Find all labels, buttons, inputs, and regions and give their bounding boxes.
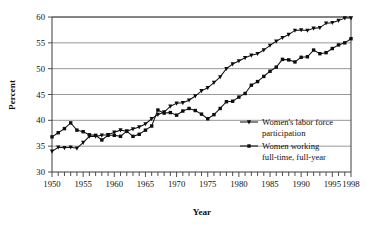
- data-point: [138, 133, 141, 136]
- chart-background: [0, 0, 372, 229]
- data-point: [81, 130, 84, 133]
- data-point: [331, 47, 334, 50]
- data-point: [75, 128, 78, 131]
- data-point: [125, 129, 128, 132]
- x-tick-label-1990: 1990: [292, 179, 310, 189]
- y-tick-label-50: 50: [36, 64, 45, 74]
- x-tick-label-1995: 1995: [324, 179, 341, 189]
- data-point: [275, 65, 278, 68]
- data-point: [225, 100, 228, 103]
- data-point: [131, 135, 134, 138]
- data-point: [206, 117, 209, 120]
- data-point: [262, 75, 265, 78]
- data-point: [50, 135, 53, 138]
- data-point: [312, 48, 315, 51]
- data-point: [162, 111, 165, 114]
- data-point: [100, 138, 103, 141]
- data-point: [57, 131, 60, 134]
- data-point: [106, 134, 109, 137]
- data-point: [150, 124, 153, 127]
- data-point: [69, 121, 72, 124]
- data-point: [200, 112, 203, 115]
- data-point: [187, 107, 190, 110]
- x-tick-label-1970: 1970: [168, 179, 186, 189]
- data-point: [293, 60, 296, 63]
- data-point: [94, 134, 97, 137]
- data-point: [324, 51, 327, 54]
- data-point: [268, 70, 271, 73]
- x-tick-label-1980: 1980: [230, 179, 248, 189]
- data-point: [144, 128, 147, 131]
- data-point: [243, 92, 246, 95]
- data-point: [281, 58, 284, 61]
- x-tick-label-1960: 1960: [106, 179, 124, 189]
- y-tick-label-60: 60: [36, 12, 45, 22]
- x-axis-title: Year: [193, 207, 211, 217]
- data-point: [113, 134, 116, 137]
- data-point: [175, 113, 178, 116]
- data-point: [306, 55, 309, 58]
- data-point: [194, 109, 197, 112]
- y-tick-label-45: 45: [36, 90, 45, 100]
- legend-label-line1-2: Women working: [262, 141, 320, 151]
- data-point: [63, 127, 66, 130]
- y-tick-label-35: 35: [36, 141, 45, 151]
- data-point: [119, 135, 122, 138]
- x-tick-label-1985: 1985: [261, 179, 278, 189]
- x-tick-label-1965: 1965: [137, 179, 154, 189]
- data-point: [212, 113, 215, 116]
- legend-label-line2-2: full-time, full-year: [262, 152, 326, 162]
- data-point: [349, 37, 352, 40]
- data-point: [250, 84, 253, 87]
- x-tick-label-1950: 1950: [43, 179, 61, 189]
- data-point: [218, 107, 221, 110]
- data-point: [88, 133, 91, 136]
- y-tick-label-55: 55: [36, 38, 45, 48]
- y-tick-label-30: 30: [36, 167, 45, 177]
- data-point: [318, 52, 321, 55]
- y-tick-label-40: 40: [36, 115, 45, 125]
- data-point: [181, 109, 184, 112]
- data-point: [237, 95, 240, 98]
- data-point: [156, 108, 159, 111]
- y-axis-title: Percent: [7, 79, 17, 110]
- data-point: [343, 41, 346, 44]
- legend-label-line2-1: participation: [262, 128, 306, 138]
- chart-figure: 1950195519601965197019751980198519901995…: [0, 0, 372, 229]
- line-chart: 1950195519601965197019751980198519901995…: [0, 0, 372, 229]
- data-point: [231, 100, 234, 103]
- x-tick-label-1975: 1975: [199, 179, 216, 189]
- legend-marker-2: [247, 144, 250, 147]
- x-tick-label-1955: 1955: [74, 179, 91, 189]
- data-point: [287, 58, 290, 61]
- data-point: [337, 43, 340, 46]
- data-point: [256, 80, 259, 83]
- data-point: [299, 56, 302, 59]
- x-tick-label-1998: 1998: [342, 179, 360, 189]
- data-point: [169, 111, 172, 114]
- legend-label-line1-1: Women's labor force: [262, 117, 333, 127]
